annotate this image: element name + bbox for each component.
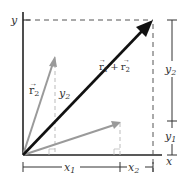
vector-addition-diagram: y x r2 → y2 r1+r2 → → y2 y1 [0, 0, 187, 181]
sum-label-arrow1-icon: → [99, 56, 106, 64]
r2-right-angle-marker [49, 149, 55, 155]
y2-inner-label: y2 [58, 87, 70, 101]
r2-arrowhead-icon [49, 56, 57, 67]
r1-right-angle-marker [114, 149, 120, 155]
sum-label-arrow2-icon: → [123, 56, 130, 64]
r2-label-arrow-icon: → [29, 79, 37, 88]
x-axis-label: x [166, 155, 173, 168]
y-axis-label: y [10, 14, 18, 27]
